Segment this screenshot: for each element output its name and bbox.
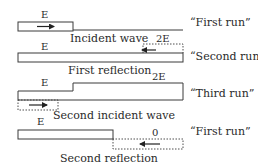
caption: First reflection	[68, 64, 151, 77]
energy-label: E	[41, 41, 48, 52]
dotted-reflected-box	[143, 44, 183, 53]
pulse-box	[18, 53, 183, 62]
run-label: “First run”	[190, 125, 251, 138]
caption: Second reflection	[60, 152, 158, 165]
caption: Incident wave	[70, 32, 148, 45]
energy-label: E	[37, 116, 44, 127]
energy-label: E	[41, 77, 48, 88]
energy-label: E	[41, 9, 48, 20]
caption: Second incident wave	[53, 109, 175, 122]
wave-reflection-diagram: E Incident wave “First run” E 2E First r…	[0, 0, 258, 166]
row-incident-wave: E Incident wave “First run”	[18, 9, 251, 45]
pulse-box	[18, 130, 113, 139]
dotted-label: 0	[152, 127, 158, 138]
run-label: “Second run”	[190, 50, 258, 63]
run-label: “First run”	[190, 16, 251, 29]
run-label: “Third run”	[190, 87, 254, 100]
step-label: 2E	[152, 71, 166, 82]
row-second-reflection: E 0 Second reflection “First run”	[18, 116, 251, 165]
row-second-incident-wave: E 2E Second incident wave “Third run”	[18, 71, 254, 122]
dotted-label: 2E	[156, 33, 170, 44]
